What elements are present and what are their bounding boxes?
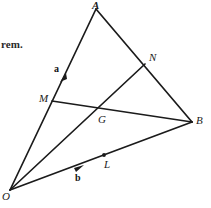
- geometry-figure: rem. A N M G B O L a b: [0, 0, 211, 208]
- point-label-N: N: [149, 52, 156, 63]
- arrow-marker-a-on-OA: [60, 73, 67, 82]
- point-label-G: G: [98, 114, 106, 125]
- vector-label-b: b: [75, 173, 81, 183]
- point-label-M: M: [39, 93, 48, 104]
- point-label-L: L: [104, 159, 110, 170]
- vector-label-a: a: [54, 64, 59, 74]
- dot-L-on-OB: [102, 153, 106, 157]
- point-label-O: O: [2, 191, 10, 202]
- segment-MB: [52, 101, 192, 122]
- point-label-A: A: [92, 0, 99, 11]
- geometry-canvas: [0, 0, 211, 208]
- point-label-B: B: [196, 115, 203, 126]
